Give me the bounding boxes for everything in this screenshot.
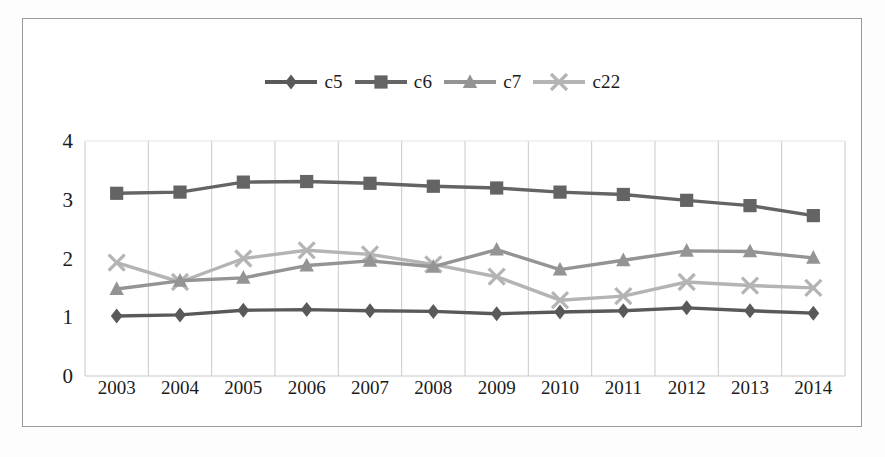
- x-axis-tick-label: 2011: [605, 377, 642, 399]
- x-axis-tick-label: 2004: [161, 377, 199, 399]
- x-axis-labels: 2003200420052006200720082009201020112012…: [23, 19, 863, 428]
- x-axis-tick-label: 2003: [98, 377, 136, 399]
- x-axis-tick-label: 2006: [288, 377, 326, 399]
- x-axis-tick-label: 2010: [541, 377, 579, 399]
- chart-frame: c5c6c7c22 01234 200320042005200620072008…: [22, 18, 862, 427]
- x-axis-tick-label: 2008: [414, 377, 452, 399]
- chart-screenshot: c5c6c7c22 01234 200320042005200620072008…: [0, 0, 885, 457]
- plot-area: 01234 2003200420052006200720082009201020…: [23, 19, 863, 428]
- x-axis-tick-label: 2012: [668, 377, 706, 399]
- x-axis-tick-label: 2013: [731, 377, 769, 399]
- x-axis-tick-label: 2007: [351, 377, 389, 399]
- x-axis-tick-label: 2014: [794, 377, 832, 399]
- x-axis-tick-label: 2009: [478, 377, 516, 399]
- x-axis-tick-label: 2005: [224, 377, 262, 399]
